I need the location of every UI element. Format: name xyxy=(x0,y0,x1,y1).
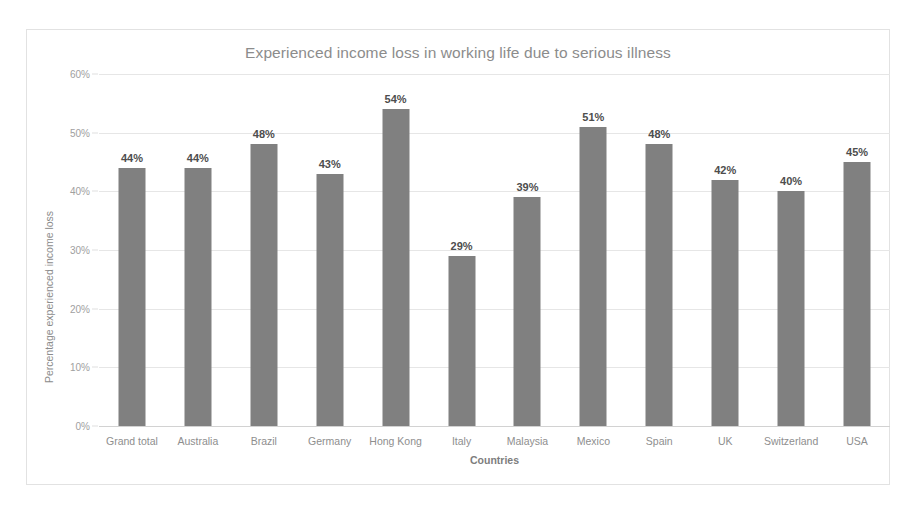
bar-group[interactable]: 43%Germany xyxy=(297,74,363,426)
y-tick-label: 40% xyxy=(70,186,90,197)
y-tick-label: 30% xyxy=(70,245,90,256)
bar-group[interactable]: 44%Grand total xyxy=(99,74,165,426)
bar-series: 44%Grand total44%Australia48%Brazil43%Ge… xyxy=(99,74,890,426)
x-axis-title: Countries xyxy=(99,454,890,466)
chart-frame: Experienced income loss in working life … xyxy=(26,29,890,485)
y-tick-mark xyxy=(92,191,98,192)
bar[interactable] xyxy=(712,180,739,426)
bar[interactable] xyxy=(250,144,277,426)
y-tick-mark xyxy=(92,250,98,251)
bar[interactable] xyxy=(184,168,211,426)
x-tick-label: Malaysia xyxy=(507,435,548,447)
x-tick-label: Mexico xyxy=(577,435,610,447)
bar[interactable] xyxy=(448,256,475,426)
y-tick-mark xyxy=(92,74,98,75)
bar-value-label: 43% xyxy=(319,158,341,170)
y-tick-mark xyxy=(92,367,98,368)
bar[interactable] xyxy=(778,191,805,426)
bar-value-label: 44% xyxy=(187,152,209,164)
bar-value-label: 40% xyxy=(780,175,802,187)
bar[interactable] xyxy=(316,174,343,426)
bar-value-label: 44% xyxy=(121,152,143,164)
y-tick-label: 10% xyxy=(70,362,90,373)
bar-value-label: 39% xyxy=(516,181,538,193)
x-tick-label: USA xyxy=(846,435,868,447)
bar[interactable] xyxy=(844,162,871,426)
x-tick-label: Italy xyxy=(452,435,471,447)
bar[interactable] xyxy=(514,197,541,426)
bar-group[interactable]: 44%Australia xyxy=(165,74,231,426)
bar-group[interactable]: 48%Brazil xyxy=(231,74,297,426)
gridline xyxy=(99,426,890,427)
bar[interactable] xyxy=(382,109,409,426)
bar-group[interactable]: 29%Italy xyxy=(429,74,495,426)
bar-value-label: 29% xyxy=(451,240,473,252)
bar-value-label: 48% xyxy=(253,128,275,140)
bar[interactable] xyxy=(118,168,145,426)
bar[interactable] xyxy=(646,144,673,426)
x-tick-label: Hong Kong xyxy=(369,435,422,447)
bar-value-label: 48% xyxy=(648,128,670,140)
x-tick-label: Germany xyxy=(308,435,351,447)
x-tick-label: Grand total xyxy=(106,435,158,447)
bar-value-label: 51% xyxy=(582,111,604,123)
chart-title: Experienced income loss in working life … xyxy=(27,44,889,62)
x-tick-label: Brazil xyxy=(251,435,277,447)
bar-value-label: 54% xyxy=(385,93,407,105)
y-axis-title-label: Percentage experienced income loss xyxy=(43,162,55,432)
plot-area: 0%10%20%30%40%50%60% 44%Grand total44%Au… xyxy=(99,74,890,426)
y-tick-mark xyxy=(92,308,98,309)
y-axis-title: Percentage experienced income loss xyxy=(43,0,57,162)
x-tick-label: Spain xyxy=(646,435,673,447)
bar[interactable] xyxy=(580,127,607,426)
y-tick-mark xyxy=(92,426,98,427)
bar-group[interactable]: 42%UK xyxy=(692,74,758,426)
y-tick-label: 0% xyxy=(76,421,90,432)
bar-group[interactable]: 48%Spain xyxy=(626,74,692,426)
bar-group[interactable]: 51%Mexico xyxy=(560,74,626,426)
x-tick-label: Australia xyxy=(177,435,218,447)
x-tick-label: Switzerland xyxy=(764,435,818,447)
bar-group[interactable]: 39%Malaysia xyxy=(495,74,561,426)
bar-group[interactable]: 40%Switzerland xyxy=(758,74,824,426)
y-tick-label: 60% xyxy=(70,69,90,80)
bar-group[interactable]: 45%USA xyxy=(824,74,890,426)
x-tick-label: UK xyxy=(718,435,733,447)
y-tick-label: 20% xyxy=(70,303,90,314)
y-tick-label: 50% xyxy=(70,127,90,138)
y-tick-mark xyxy=(92,132,98,133)
bar-value-label: 45% xyxy=(846,146,868,158)
bar-value-label: 42% xyxy=(714,164,736,176)
bar-group[interactable]: 54%Hong Kong xyxy=(363,74,429,426)
